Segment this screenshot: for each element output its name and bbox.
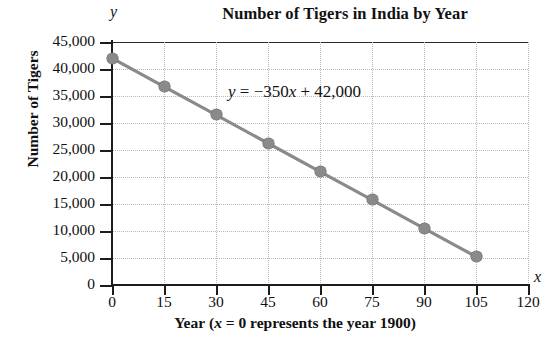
y-axis-tick-label: 20,000 (0, 167, 95, 185)
x-axis-tick-label: 15 (134, 293, 194, 311)
chart-title: Number of Tigers in India by Year (150, 4, 540, 24)
x-axis-tick-label: 105 (446, 293, 506, 311)
y-axis-tick-label: 45,000 (0, 32, 95, 50)
data-point-marker (107, 53, 118, 64)
data-point-marker (211, 109, 222, 120)
y-axis-tick (100, 69, 112, 71)
data-point-marker (315, 166, 326, 177)
x-axis-tick-label: 45 (238, 293, 298, 311)
equation-y: y (228, 82, 236, 101)
y-axis-tick (100, 204, 112, 206)
y-axis-tick-label: 10,000 (0, 221, 95, 239)
y-axis-tick-label: 15,000 (0, 194, 95, 212)
x-axis-tick-label: 75 (342, 293, 402, 311)
y-axis-tick (100, 123, 112, 125)
y-axis-tick-label: 0 (0, 275, 95, 293)
data-point-marker (471, 251, 482, 262)
x-axis-title: Year (x = 0 represents the year 1900) (60, 314, 530, 332)
chart-figure: Number of Tigers in India by Year y x Nu… (0, 0, 557, 342)
y-axis-tick (100, 231, 112, 233)
y-axis-tick-label: 35,000 (0, 86, 95, 104)
gridline-vertical (528, 42, 529, 285)
equation-intercept: + 42,000 (296, 82, 361, 101)
y-axis-tick-label: 5,000 (0, 248, 95, 266)
x-axis-tick-label: 0 (82, 293, 142, 311)
y-axis-tick (100, 42, 112, 44)
y-axis-tick (100, 177, 112, 179)
x-axis-tick-label: 60 (290, 293, 350, 311)
line-series-svg (112, 42, 528, 285)
y-axis-letter: y (110, 3, 117, 21)
data-point-marker (263, 138, 274, 149)
y-axis-tick-label: 25,000 (0, 140, 95, 158)
x-axis-tick-label: 30 (186, 293, 246, 311)
x-axis-tick-label: 120 (498, 293, 557, 311)
equation-eq: = (236, 82, 254, 101)
y-axis-tick (100, 150, 112, 152)
data-point-marker (367, 194, 378, 205)
y-axis-tick (100, 258, 112, 260)
y-axis-tick-label: 30,000 (0, 113, 95, 131)
data-point-marker (159, 81, 170, 92)
x-axis-title-text: Year (x = 0 represents the year 1900) (174, 314, 416, 331)
x-axis-letter: x (534, 268, 541, 286)
x-axis-tick-label: 90 (394, 293, 454, 311)
equation-annotation: y = −350x + 42,000 (228, 82, 361, 102)
y-axis-tick (100, 96, 112, 98)
y-axis-tick (100, 285, 112, 287)
equation-slope: −350 (254, 82, 289, 101)
data-point-marker (419, 223, 430, 234)
y-axis-tick-label: 40,000 (0, 59, 95, 77)
data-line-layer (112, 42, 528, 285)
